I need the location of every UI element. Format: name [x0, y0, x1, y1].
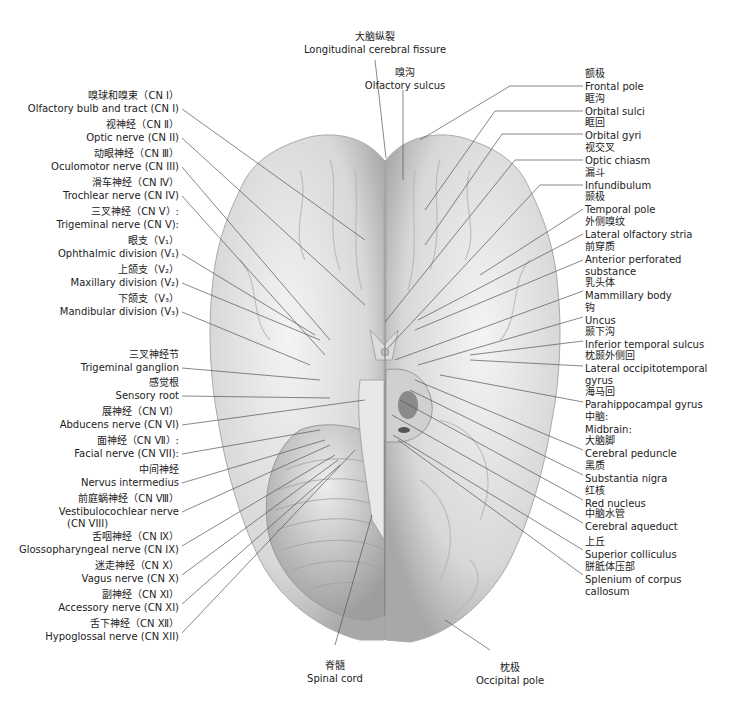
label-orbital-sulci: 眶沟 Orbital sulci — [585, 93, 645, 118]
label-vestibulocochlear-nerve-cn: (CN VIII) — [67, 518, 108, 531]
label-inferior-temporal-sulcus: 颞下沟 Inferior temporal sulcus — [585, 326, 704, 351]
label-infundibulum: 漏斗 Infundibulum — [585, 167, 651, 192]
label-splenium-corpus-callosum: 胼胝体压部 Splenium of corpus callosum — [585, 561, 681, 599]
label-cerebral-aqueduct: 中脑水管 Cerebral aqueduct — [585, 508, 678, 533]
label-hypoglossal-nerve: 舌下神经（CN Ⅻ） Hypoglossal nerve (CN XII) — [45, 618, 179, 643]
label-nervus-intermedius: 中间神经 Nervus intermedius — [81, 464, 179, 489]
label-red-nucleus: 红核 Red nucleus — [585, 485, 646, 510]
label-accessory-nerve: 副神经（CN Ⅺ） Accessory nerve (CN XI) — [58, 589, 179, 614]
label-lateral-occipitotemporal-gyrus: 枕颞外侧回 Lateral occipitotemporal gyrus — [585, 350, 707, 388]
label-longitudinal-fissure: 大脑纵裂 Longitudinal cerebral fissure — [300, 31, 450, 56]
label-facial-nerve: 面神经（CN Ⅶ）: Facial nerve (CN VII): — [74, 435, 179, 460]
label-parahippocampal-gyrus: 海马回 Parahippocampal gyrus — [585, 386, 703, 411]
label-frontal-pole: 额极 Frontal pole — [585, 68, 644, 93]
label-abducens-nerve: 展神经（CN Ⅵ） Abducens nerve (CN VI) — [60, 406, 179, 431]
label-oculomotor-nerve: 动眼神经（CN Ⅲ） Oculomotor nerve (CN III) — [51, 148, 179, 173]
label-optic-chiasm: 视交叉 Optic chiasm — [585, 142, 650, 167]
label-sensory-root: 感觉根 Sensory root — [116, 377, 179, 402]
label-orbital-gyri: 眶回 Orbital gyri — [585, 117, 641, 142]
label-glossopharyngeal-nerve: 舌咽神经（CN Ⅸ） Glossopharyngeal nerve (CN IX… — [19, 531, 179, 556]
label-mammillary-body: 乳头体 Mammillary body — [585, 277, 672, 302]
label-vagus-nerve: 迷走神经（CN Ⅹ） Vagus nerve (CN X) — [82, 560, 179, 585]
label-trochlear-nerve: 滑车神经（CN Ⅳ） Trochlear nerve (CN IV) — [63, 177, 179, 202]
label-spinal-cord: 脊髓 Spinal cord — [295, 660, 375, 685]
label-occipital-pole: 枕极 Occipital pole — [465, 662, 555, 687]
label-cerebral-peduncle: 大脑脚 Cerebral peduncle — [585, 435, 677, 460]
label-optic-nerve: 视神经（CN Ⅱ） Optic nerve (CN II) — [86, 119, 179, 144]
label-vestibulocochlear-nerve: 前庭蜗神经（CN Ⅷ） Vestibulocochlear nerve — [59, 493, 179, 518]
label-substantia-nigra: 黑质 Substantia nigra — [585, 460, 667, 485]
label-olfactory-sulcus: 嗅沟 Olfactory sulcus — [360, 67, 450, 92]
label-olfactory-bulb: 嗅球和嗅束（CN Ⅰ） Olfactory bulb and tract (CN… — [28, 90, 179, 115]
label-uncus: 钩 Uncus — [585, 302, 616, 327]
label-anterior-perforated-substance: 前穿质 Anterior perforated substance — [585, 241, 681, 279]
label-trigeminal-nerve: 三叉神经（CN Ⅴ）: Trigeminal nerve (CN V): — [57, 206, 179, 231]
label-ophthalmic-division: 眼支（V₁） Ophthalmic division (V₁) — [58, 235, 179, 260]
label-superior-colliculus: 上丘 Superior colliculus — [585, 536, 677, 561]
label-midbrain: 中脑: Midbrain: — [585, 411, 632, 436]
label-temporal-pole: 颞极 Temporal pole — [585, 191, 655, 216]
label-maxillary-division: 上颌支（V₂） Maxillary division (V₂) — [71, 264, 179, 289]
label-mandibular-division: 下颌支（V₃） Mandibular division (V₃) — [60, 293, 179, 318]
label-trigeminal-ganglion: 三叉神经节 Trigeminal ganglion — [81, 349, 179, 374]
label-lateral-olfactory-stria: 外侧嗅纹 Lateral olfactory stria — [585, 216, 692, 241]
